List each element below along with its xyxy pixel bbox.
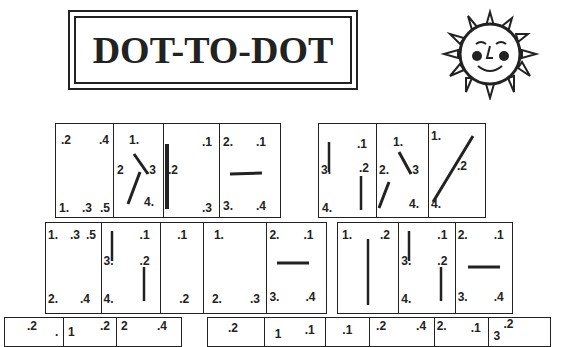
dot-label: 1 bbox=[275, 328, 282, 340]
dot-label: 3. bbox=[458, 291, 468, 303]
dot-label: 2. bbox=[269, 229, 279, 241]
dot-label: .3 bbox=[146, 164, 156, 176]
puzzle-cell: .2 .4 1. .3 .5 bbox=[56, 124, 114, 217]
dot-label: .1 bbox=[357, 138, 367, 150]
dot-label: 2. bbox=[212, 293, 222, 305]
puzzle-cell: .1 bbox=[326, 318, 370, 346]
dot-label: .4 bbox=[157, 320, 167, 332]
dot-label: 3. bbox=[401, 255, 411, 267]
dot-label: 4. bbox=[104, 293, 114, 305]
dot-label: .1 bbox=[437, 229, 447, 241]
puzzle-cell: .1 3. .2 4. bbox=[319, 124, 377, 217]
dot-label: .2 bbox=[359, 162, 369, 174]
dot-label: 4. bbox=[401, 293, 411, 305]
puzzle-row-1-left: .2 .4 1. .3 .5 1. 2 .3 4. .1 .2 .3 2. .1… bbox=[55, 123, 281, 218]
dot-label: .3 bbox=[409, 164, 419, 176]
dot-label: .2 bbox=[376, 320, 386, 332]
dot-label: 2 bbox=[117, 164, 124, 176]
puzzle-cell: 2 .4 bbox=[117, 318, 181, 346]
dot-label: 4. bbox=[409, 198, 419, 210]
dot-label: .4 bbox=[256, 200, 266, 212]
dot-label: .1 bbox=[471, 322, 481, 334]
dot-label: 3. bbox=[104, 255, 114, 267]
dot-label: .3 bbox=[82, 202, 92, 214]
puzzle-cell: .2 bbox=[208, 318, 265, 346]
dot-label: 1. bbox=[214, 229, 224, 241]
dot-label: .2 bbox=[437, 255, 447, 267]
dot-label: 3 bbox=[493, 330, 500, 342]
dot-label: .4 bbox=[494, 291, 504, 303]
dot-label: .1 bbox=[494, 229, 504, 241]
dot-label: . bbox=[55, 326, 58, 338]
dot-label: 3. bbox=[321, 164, 331, 176]
dot-label: .5 bbox=[100, 202, 110, 214]
puzzle-cell: 2. .1 3. .4 bbox=[456, 223, 512, 313]
puzzle-row-2-left: 1. .3 .5 2. .4 .1 3. .2 4. .1 .2 1. 2. .… bbox=[45, 222, 327, 314]
dot-label: 1. bbox=[129, 134, 139, 146]
puzzle-cell: 1. 2. .3 4. bbox=[377, 124, 429, 217]
dot-label: 4. bbox=[431, 198, 441, 210]
dot-label: .4 bbox=[80, 293, 90, 305]
dot-label: 3. bbox=[269, 291, 279, 303]
dot-label: 4. bbox=[144, 196, 154, 208]
dot-label: 1 bbox=[68, 326, 75, 338]
dot-label: .3 bbox=[202, 202, 212, 214]
puzzle-cell: 1. 2 .3 4. bbox=[114, 124, 164, 217]
title-frame: DOT-TO-DOT bbox=[68, 10, 358, 90]
dot-label: .4 bbox=[305, 291, 315, 303]
dot-label: 2. bbox=[437, 320, 447, 332]
dot-label: .1 bbox=[140, 229, 150, 241]
puzzle-cell: 1. .2 bbox=[338, 223, 399, 313]
title-inner-frame: DOT-TO-DOT bbox=[74, 16, 352, 84]
dot-label: .1 bbox=[202, 136, 212, 148]
dot-label: 2 bbox=[121, 320, 128, 332]
dot-label: .2 bbox=[503, 318, 513, 330]
dot-label: .3 bbox=[250, 293, 260, 305]
dot-label: 4. bbox=[322, 202, 332, 214]
dot-label: .2 bbox=[179, 293, 189, 305]
puzzle-cell: .1 3. .2 4. bbox=[399, 223, 455, 313]
dot-label: .4 bbox=[99, 134, 109, 146]
puzzle-cell: 2. .1 3. .4 bbox=[267, 223, 326, 313]
puzzle-row-3-right: .2 1 .1 .1 .2 .4 2. .1 .2 3 bbox=[207, 317, 551, 347]
dot-label: .2 bbox=[61, 134, 71, 146]
dot-label: .4 bbox=[416, 320, 426, 332]
puzzle-cell: 1. 2. .3 bbox=[204, 223, 268, 313]
dot-label: .1 bbox=[303, 229, 313, 241]
dot-label: .2 bbox=[457, 160, 467, 172]
puzzle-row-1-right: .1 3. .2 4. 1. 2. .3 4. 1. .2 4. bbox=[318, 123, 486, 218]
dot-label: .2 bbox=[140, 255, 150, 267]
dot-label: 1. bbox=[59, 202, 69, 214]
puzzle-cell: .1 .2 bbox=[161, 223, 204, 313]
dot-label: 2. bbox=[223, 136, 233, 148]
puzzle-cell: .1 .2 .3 bbox=[164, 124, 220, 217]
dot-label: .1 bbox=[177, 229, 187, 241]
dot-label: .2 bbox=[100, 320, 110, 332]
puzzle-cell: 2. .1 3. .4 bbox=[220, 124, 280, 217]
dot-label: .3 bbox=[70, 229, 80, 241]
dot-label: .2 bbox=[228, 322, 238, 334]
dot-label: .1 bbox=[305, 324, 315, 336]
dot-label: .5 bbox=[86, 229, 96, 241]
puzzle-cell: 1 .1 bbox=[265, 318, 327, 346]
puzzle-row-3-left: .2 . 1 .2 2 .4 bbox=[4, 317, 182, 347]
dot-label: 2. bbox=[379, 164, 389, 176]
puzzle-cell: 1. .3 .5 2. .4 bbox=[46, 223, 102, 313]
dot-label: 2. bbox=[48, 293, 58, 305]
page-title: DOT-TO-DOT bbox=[93, 28, 334, 72]
dot-label: 1. bbox=[431, 130, 441, 142]
sun-face-icon bbox=[440, 8, 540, 100]
puzzle-cell: 2. .1 bbox=[435, 318, 490, 346]
puzzle-cell: .1 3. .2 4. bbox=[102, 223, 162, 313]
dot-label: .1 bbox=[342, 324, 352, 336]
dot-label: .2 bbox=[380, 229, 390, 241]
dot-label: 1. bbox=[48, 229, 58, 241]
dot-label: 3. bbox=[223, 200, 233, 212]
dot-label: .1 bbox=[256, 136, 266, 148]
puzzle-row-2-right: 1. .2 .1 3. .2 4. 2. .1 3. .4 bbox=[337, 222, 513, 314]
puzzle-cell: .2 .4 bbox=[370, 318, 435, 346]
dot-label: 2. bbox=[458, 229, 468, 241]
puzzle-cell: 1. .2 4. bbox=[429, 124, 484, 217]
dot-label: .2 bbox=[168, 164, 178, 176]
dot-label: 1. bbox=[393, 136, 403, 148]
